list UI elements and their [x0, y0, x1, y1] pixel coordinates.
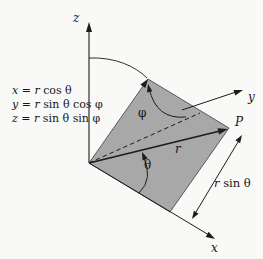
r-sin-theta-label: r sin θ: [214, 176, 251, 190]
z-to-plane-arc: [89, 58, 147, 78]
equation-y: y = r sin θ cos φ: [12, 98, 103, 112]
equation-z: z = r sin θ sin φ: [12, 112, 103, 126]
y-axis-label: y: [247, 90, 255, 104]
y-axis-line: [182, 92, 236, 110]
equation-block: x = r cos θ y = r sin θ cos φ z = r sin …: [12, 84, 103, 126]
y-axis-arrowhead-icon: [234, 90, 244, 96]
dimension-upper-arrowhead-icon: [235, 135, 242, 143]
z-axis-arrowhead-icon: [86, 22, 92, 32]
z-axis-label: z: [72, 11, 80, 25]
x-axis-arrowhead-icon: [206, 232, 215, 239]
x-axis-label: x: [211, 241, 218, 255]
spherical-coordinates-figure: z y x P r φ θ x = r cos θ y = r sin θ co…: [0, 0, 263, 259]
dimension-lower-arrowhead-icon: [192, 211, 199, 219]
theta-angle-label: θ: [144, 158, 151, 172]
coordinate-diagram: z y x P r φ θ: [0, 0, 263, 259]
point-p-label: P: [234, 115, 244, 129]
phi-angle-label: φ: [138, 106, 146, 120]
equation-x: x = r cos θ: [12, 84, 103, 98]
